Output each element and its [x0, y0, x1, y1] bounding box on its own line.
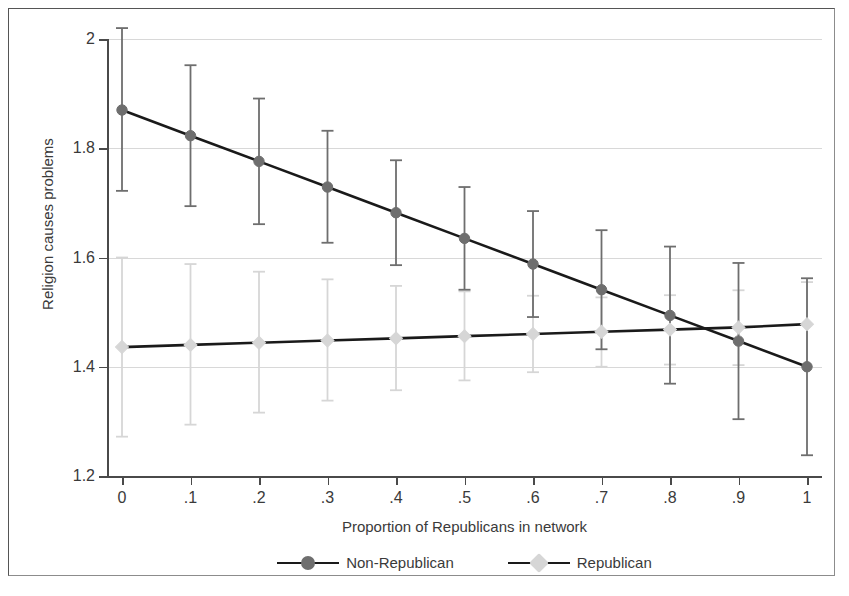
- x-tick-mark: [533, 476, 535, 485]
- x-tick-mark: [191, 476, 193, 485]
- x-tick-mark: [259, 476, 261, 485]
- y-tick-mark: [99, 148, 107, 150]
- y-tick-mark: [99, 476, 107, 478]
- x-tick-label: .9: [732, 489, 745, 507]
- x-tick-label: .7: [595, 489, 608, 507]
- legend-key: [277, 556, 339, 570]
- x-tick-label: .2: [252, 489, 265, 507]
- legend-item-non-republican[interactable]: Non-Republican: [277, 554, 454, 571]
- x-tick-label: 1: [803, 489, 812, 507]
- chart-legend: Non-RepublicanRepublican: [107, 554, 822, 571]
- x-tick-mark: [122, 476, 124, 485]
- y-tick-label: 1.6: [73, 249, 95, 267]
- y-tick-label: 1.4: [73, 358, 95, 376]
- data-series-layer: [107, 39, 822, 476]
- legend-label: Republican: [577, 554, 652, 571]
- figure-canvas: Religion causes problems 21.81.61.41.2 0…: [0, 0, 849, 596]
- x-tick-label: .3: [321, 489, 334, 507]
- y-tick-mark: [99, 39, 107, 41]
- x-tick-label: .1: [184, 489, 197, 507]
- y-tick-label: 2: [86, 30, 95, 48]
- x-tick-label: 0: [118, 489, 127, 507]
- legend-circle-marker-icon: [301, 556, 315, 570]
- y-axis-title: Religion causes problems: [39, 74, 56, 374]
- y-tick-mark: [99, 367, 107, 369]
- x-axis-title: Proportion of Republicans in network: [107, 518, 822, 535]
- legend-key: [508, 556, 570, 570]
- plot-area: 21.81.61.41.2 0.1.2.3.4.5.6.7.8.91: [107, 39, 822, 476]
- legend-diamond-marker-icon: [529, 553, 549, 573]
- y-tick-label: 1.2: [73, 467, 95, 485]
- x-tick-label: .5: [458, 489, 471, 507]
- x-tick-mark: [602, 476, 604, 485]
- y-tick-label: 1.8: [73, 139, 95, 157]
- x-tick-mark: [807, 476, 809, 485]
- x-tick-mark: [465, 476, 467, 485]
- x-tick-mark: [396, 476, 398, 485]
- y-tick-mark: [99, 258, 107, 260]
- x-tick-label: .8: [663, 489, 676, 507]
- x-tick-mark: [739, 476, 741, 485]
- legend-label: Non-Republican: [346, 554, 454, 571]
- figure-frame: Religion causes problems 21.81.61.41.2 0…: [8, 8, 835, 576]
- x-tick-label: .6: [526, 489, 539, 507]
- x-tick-mark: [670, 476, 672, 485]
- legend-item-republican[interactable]: Republican: [508, 554, 652, 571]
- x-tick-mark: [328, 476, 330, 485]
- x-tick-label: .4: [389, 489, 402, 507]
